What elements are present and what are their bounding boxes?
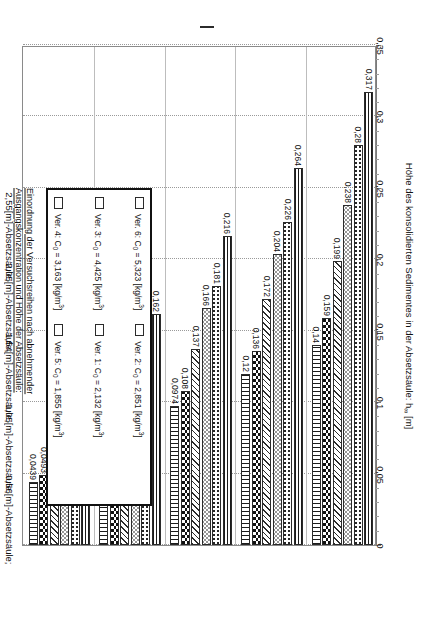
axis-tick-label: 0,1 <box>375 397 385 410</box>
axis-tick-minor <box>376 488 379 489</box>
bar[interactable]: 0,238 <box>343 205 352 545</box>
axis-tick-minor <box>376 445 379 446</box>
bar[interactable]: 0,12 <box>241 374 250 545</box>
legend-item[interactable]: Ver. 1: C0 = 2,132 [kg/m3] <box>93 324 105 437</box>
bar-value-label: 0,162 <box>152 290 161 311</box>
bar[interactable]: 0,108 <box>181 391 190 545</box>
axis-tick-minor <box>376 359 379 360</box>
legend-item[interactable]: Ver. 5: C0 = 1,855 [kg/m3] <box>53 324 65 437</box>
axis-tick-minor <box>376 88 379 89</box>
bar-value-label: 0,12 <box>241 355 250 372</box>
axis-tick-minor <box>376 102 379 103</box>
bar-value-label: 0,199 <box>333 237 342 258</box>
legend-box[interactable]: Ver. 6: C0 = 5,323 [kg/m3]Ver. 2: C0 = 2… <box>46 188 152 506</box>
bar[interactable]: 0,199 <box>333 261 342 545</box>
bar-value-label: 0,28 <box>354 126 363 143</box>
bar-group: 0,140,1590,1990,2380,280,317 <box>306 47 377 545</box>
bar[interactable]: 0,28 <box>354 145 363 545</box>
bar[interactable]: 0,166 <box>202 308 211 545</box>
bar[interactable]: 0,226 <box>283 222 292 545</box>
legend-item[interactable]: Ver. 2: C0 = 2,851 [kg/m3] <box>133 324 145 437</box>
legend-row: Ver. 3: C0 = 4,425 [kg/m3]Ver. 1: C0 = 2… <box>93 197 105 497</box>
legend-item[interactable]: Ver. 6: C0 = 5,323 [kg/m3] <box>133 197 145 310</box>
bar-value-label: 0,264 <box>294 145 303 166</box>
axis-tick-label: 0 <box>375 543 385 548</box>
bar-value-label: 0,216 <box>223 213 232 234</box>
bar[interactable]: 0,137 <box>191 349 200 545</box>
axis-tick-minor <box>376 431 379 432</box>
legend-item-label: Ver. 4: C0 = 3,163 [kg/m3] <box>53 214 65 310</box>
bar[interactable]: 0,136 <box>252 351 261 545</box>
axis-tick-minor <box>376 59 379 60</box>
bar[interactable]: 0,216 <box>223 236 232 545</box>
axis-tick-minor <box>376 502 379 503</box>
legend-swatch-circles-icon <box>54 197 63 209</box>
legend-swatch-blotch-icon <box>95 324 104 336</box>
axis-tick-label: 0,15 <box>375 323 385 341</box>
legend-item-label: Ver. 1: C0 = 2,132 [kg/m3] <box>93 341 105 437</box>
legend-items: Ver. 6: C0 = 5,323 [kg/m3]Ver. 2: C0 = 2… <box>48 190 150 504</box>
rotated-chart-stage: 0,56[m]-Absetzsäule;1,05[m]-Absetzsäule;… <box>0 0 435 624</box>
axis-tick-minor <box>376 231 379 232</box>
axis-tick-label: 0,35 <box>375 37 385 55</box>
axis-tick-minor <box>376 202 379 203</box>
legend-item-label: Ver. 5: C0 = 1,855 [kg/m3] <box>53 341 65 437</box>
axis-tick-minor <box>376 516 379 517</box>
gridline <box>23 44 375 45</box>
bar[interactable]: 0,0974 <box>170 406 179 545</box>
bar-value-label: 0,166 <box>202 285 211 306</box>
axis-tick-label: 0,25 <box>375 180 385 198</box>
bar-value-label: 0,137 <box>191 326 200 347</box>
bar-value-label: 0,181 <box>212 263 221 284</box>
bar[interactable]: 0,264 <box>294 168 303 545</box>
axis-tick-minor <box>376 416 379 417</box>
axis-tick-label: 0,3 <box>375 111 385 124</box>
legend-swatch-diag-icon <box>135 324 144 336</box>
axis-tick-minor <box>376 316 379 317</box>
bar-value-label: 0,226 <box>283 199 292 220</box>
corner-tick-mark <box>200 26 214 28</box>
axis-tick-minor <box>376 159 379 160</box>
bar[interactable]: 0,159 <box>322 318 331 545</box>
legend-title: Einordnung der Versuchsreihen nach abneh… <box>12 188 35 506</box>
axis-tick-minor <box>376 388 379 389</box>
axis-tick-minor <box>376 531 379 532</box>
legend-item-label: Ver. 6: C0 = 5,323 [kg/m3] <box>133 214 145 310</box>
bar[interactable]: 0,317 <box>364 92 373 545</box>
value-axis-title-text: Höhe des konsolidierten Sedimentes in de… <box>404 163 415 429</box>
bar[interactable]: 0,162 <box>152 314 161 545</box>
bar[interactable]: 0,181 <box>212 286 221 545</box>
axis-tick-minor <box>376 245 379 246</box>
bar-value-label: 0,14 <box>312 326 321 343</box>
bar[interactable]: 0,204 <box>273 254 282 545</box>
axis-tick-minor <box>376 288 379 289</box>
axis-tick-minor <box>376 216 379 217</box>
axis-tick-minor <box>376 131 379 132</box>
axis-tick-minor <box>376 374 379 375</box>
legend-item-label: Ver. 3: C0 = 4,425 [kg/m3] <box>93 214 105 310</box>
bar-value-label: 0,136 <box>252 327 261 348</box>
legend-row: Ver. 4: C0 = 3,163 [kg/m3]Ver. 5: C0 = 1… <box>53 197 65 497</box>
axis-tick-label: 0,2 <box>375 254 385 267</box>
bar[interactable]: 0,172 <box>262 299 271 545</box>
bar-group: 0,09740,1080,1370,1660,1810,216 <box>165 47 236 545</box>
bar-value-label: 0,172 <box>262 276 271 297</box>
legend-row: Ver. 6: C0 = 5,323 [kg/m3]Ver. 2: C0 = 2… <box>133 197 145 497</box>
legend-item-label: Ver. 2: C0 = 2,851 [kg/m3] <box>133 341 145 437</box>
bar-value-label: 0,204 <box>273 230 282 251</box>
value-axis-title: Höhe des konsolidierten Sedimentes in de… <box>404 46 415 546</box>
bar-group: 0,120,1360,1720,2040,2260,264 <box>235 47 306 545</box>
legend-item[interactable]: Ver. 4: C0 = 3,163 [kg/m3] <box>53 197 65 310</box>
axis-tick-minor <box>376 174 379 175</box>
bar[interactable]: 0,14 <box>312 345 321 545</box>
axis-tick-minor <box>376 74 379 75</box>
bar-value-label: 0,317 <box>365 69 374 90</box>
axis-tick-minor <box>376 345 379 346</box>
axis-tick-minor <box>376 145 379 146</box>
bar-value-label: 0,0974 <box>170 378 179 404</box>
axis-tick-minor <box>376 274 379 275</box>
legend-title-line-2: Ausgangskonzentration und Höhe der Abset… <box>12 188 23 506</box>
axis-tick-minor <box>376 459 379 460</box>
legend-swatch-vlines-icon <box>54 324 63 336</box>
legend-item[interactable]: Ver. 3: C0 = 4,425 [kg/m3] <box>93 197 105 310</box>
